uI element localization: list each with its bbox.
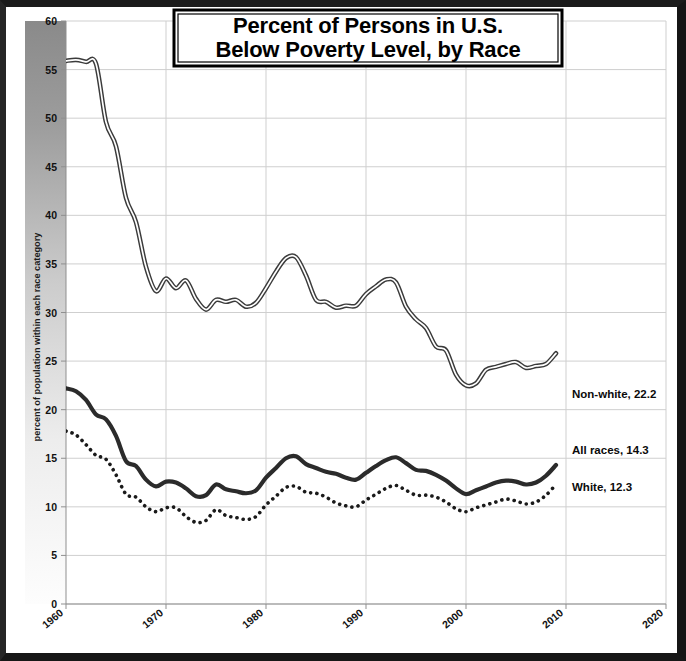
x-tick-label: 1960 [40,606,66,630]
y-tick-label: 60 [45,15,57,27]
series-label-all-races: All races, 14.3 [572,444,649,456]
chart-title-line-1: Percent of Persons in U.S. [233,13,503,38]
y-tick-label: 45 [45,161,57,173]
x-tick-label: 2020 [640,606,666,630]
x-tick-label: 1990 [340,606,366,630]
y-tick-label: 40 [45,209,57,221]
x-tick-label: 1980 [240,606,266,630]
x-tick-label: 2010 [540,606,566,630]
poverty-line-chart: 051015202530354045505560 196019701980199… [6,7,677,653]
y-tick-label: 10 [45,501,57,513]
y-tick-label: 35 [45,258,57,270]
y-axis-title: percent of population within each race c… [32,232,42,442]
x-tick-labels: 1960197019801990200020102020 [40,606,666,630]
y-tick-label: 5 [51,549,57,561]
x-tick-label: 1970 [140,606,166,630]
y-tick-label: 20 [45,404,57,416]
series-label-non-white: Non-white, 22.2 [572,388,656,400]
chart-canvas: 051015202530354045505560 196019701980199… [6,7,677,653]
y-tick-label: 25 [45,355,57,367]
x-tick-label: 2000 [440,606,466,630]
y-tick-label: 55 [45,64,57,76]
series-label-white: White, 12.3 [572,481,632,493]
chart-title-box: Percent of Persons in U.S. Below Poverty… [174,10,562,66]
chart-title-line-2: Below Poverty Level, by Race [216,37,521,62]
y-tick-label: 30 [45,307,57,319]
image-border-frame: 051015202530354045505560 196019701980199… [0,0,686,661]
y-tick-label: 50 [45,112,57,124]
y-tick-label: 15 [45,452,57,464]
